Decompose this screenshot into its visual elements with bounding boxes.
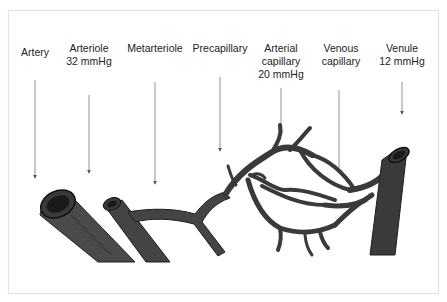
pointer-arrows xyxy=(35,77,402,184)
capillary-network xyxy=(225,125,388,255)
vessel-illustration xyxy=(0,0,447,302)
venule-vessel xyxy=(370,144,412,255)
